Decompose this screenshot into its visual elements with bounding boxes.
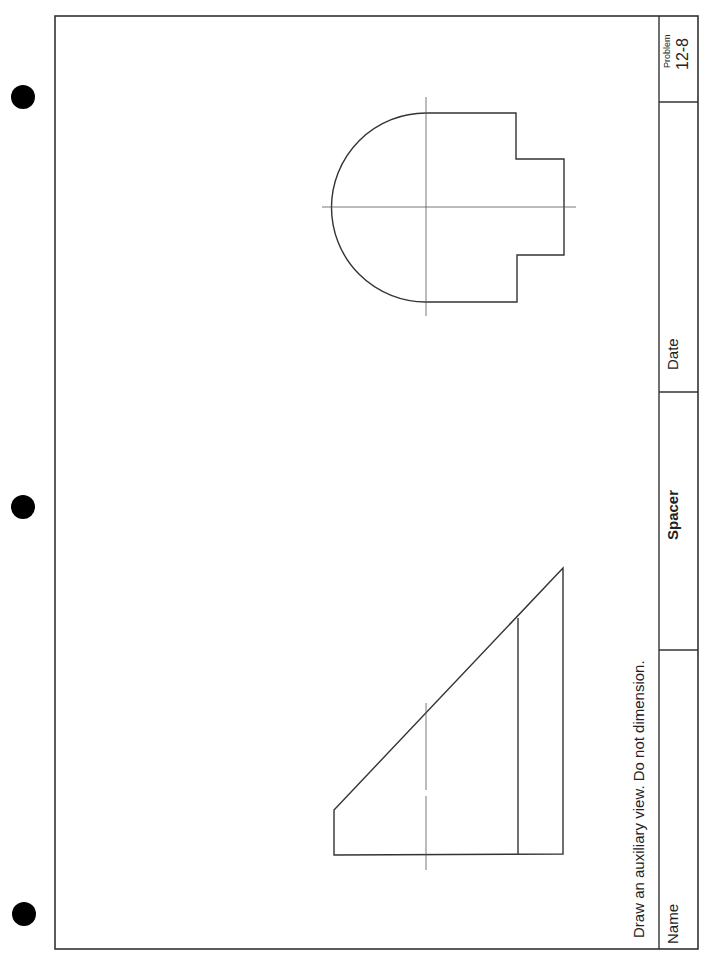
drawing-sheet xyxy=(0,0,723,972)
problem-label: Problem xyxy=(662,34,672,68)
part-name: Spacer xyxy=(664,490,681,540)
instruction-text: Draw an auxiliary view. Do not dimension… xyxy=(630,660,647,938)
sheet-border xyxy=(55,16,698,949)
date-label: Date xyxy=(664,338,681,370)
problem-number: 12-8 xyxy=(674,38,692,70)
top-view-drawing xyxy=(322,97,576,316)
front-view-drawing xyxy=(334,568,563,870)
name-label: Name xyxy=(664,904,681,944)
